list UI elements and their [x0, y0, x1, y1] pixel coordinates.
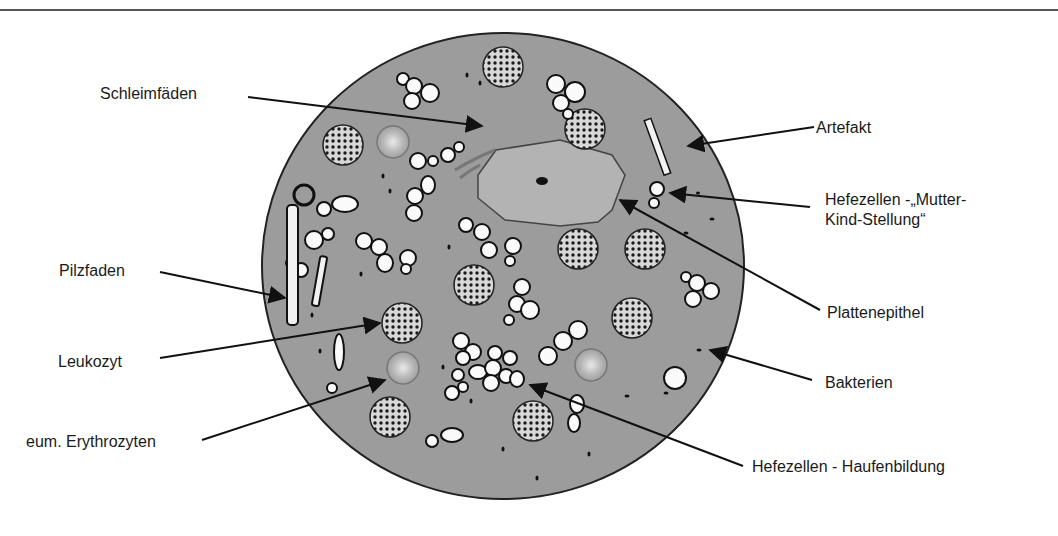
- label-hefe-mutter-kind-line2: Kind-Stellung“: [825, 210, 966, 230]
- microscope-field-diagram: [0, 0, 1058, 536]
- label-bakterien: Bakterien: [825, 373, 893, 393]
- squamous-epithelial-cell: [478, 140, 625, 226]
- field-of-view: [262, 33, 744, 499]
- label-erythrozyten: eum. Erythrozyten: [26, 432, 156, 452]
- label-hefe-mutter-kind-line1: Hefezellen -„Mutter-: [825, 190, 966, 210]
- label-schleimfaeden: Schleimfäden: [100, 84, 197, 104]
- label-hefe-haufen: Hefezellen - Haufenbildung: [752, 457, 945, 477]
- label-pilzfaden: Pilzfaden: [59, 261, 125, 281]
- label-leukozyt: Leukozyt: [58, 352, 122, 372]
- label-hefe-mutter-kind: Hefezellen -„Mutter- Kind-Stellung“: [825, 190, 966, 230]
- label-plattenepithel: Plattenepithel: [827, 303, 924, 323]
- label-artefakt: Artefakt: [816, 118, 871, 138]
